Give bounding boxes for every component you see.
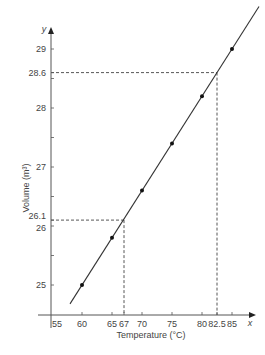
x-tick-label: 80 <box>197 319 207 329</box>
data-point <box>170 141 174 145</box>
y-axis-title: Volume (m³) <box>21 163 31 212</box>
x-axis-letter: x <box>247 318 253 328</box>
y-tick-label: 25 <box>36 280 46 290</box>
annotation-lines <box>51 73 217 315</box>
y-tick-label: 29 <box>36 44 46 54</box>
y-tick-label: 27 <box>36 162 46 172</box>
y-tick-label: 28 <box>36 103 46 113</box>
data-point <box>110 236 114 240</box>
data-point <box>230 47 234 51</box>
data-point <box>200 94 204 98</box>
y-axis-letter: y <box>41 24 47 34</box>
data-point <box>80 283 84 287</box>
series <box>70 7 259 304</box>
x-tick-label: 82.5 <box>208 319 226 329</box>
x-tick-label: 60 <box>77 319 87 329</box>
y-tick-label: 28.6 <box>28 68 46 78</box>
x-tick-label: 65 <box>107 319 117 329</box>
y-tick-label: 26 <box>36 223 46 233</box>
chart: 5560656770758082.585252626.1272828.629 T… <box>0 0 265 355</box>
x-tick-label: 67 <box>119 319 129 329</box>
x-tick-label: 85 <box>227 319 237 329</box>
y-axis-arrow <box>48 27 54 34</box>
x-tick-label: 75 <box>167 319 177 329</box>
ticks: 5560656770758082.585252626.1272828.629 <box>28 44 237 329</box>
x-tick-label: 55 <box>52 319 62 329</box>
fit-line <box>70 7 259 304</box>
x-tick-label: 70 <box>137 319 147 329</box>
x-axis-title: Temperature (°C) <box>116 330 185 340</box>
data-point <box>140 189 144 193</box>
y-tick-label: 26.1 <box>28 211 46 221</box>
